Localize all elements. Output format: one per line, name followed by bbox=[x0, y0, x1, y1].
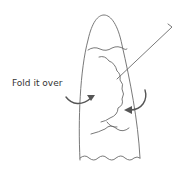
filling-lower-left bbox=[91, 126, 129, 134]
fold-edge bbox=[88, 47, 127, 51]
pointer-line bbox=[117, 24, 172, 79]
cone-outline bbox=[79, 15, 140, 160]
right-arrow-head-icon bbox=[124, 106, 132, 114]
fold-diagram: Fold it over bbox=[0, 0, 182, 169]
filling-scallops bbox=[99, 57, 124, 123]
bottom-wave-icon bbox=[80, 156, 140, 160]
fold-it-over-label: Fold it over bbox=[12, 78, 62, 88]
right-arrow-icon bbox=[130, 90, 146, 110]
left-arrow-icon bbox=[66, 97, 91, 104]
